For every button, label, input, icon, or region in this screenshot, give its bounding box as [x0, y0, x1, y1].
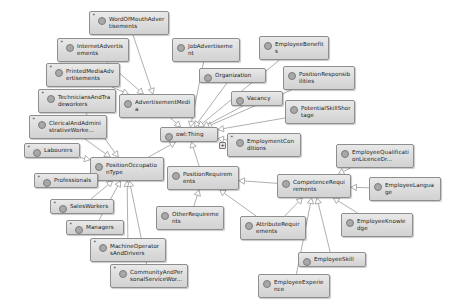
class-node-technicians[interactable]: *TechniciansAndTradeworkers	[38, 89, 116, 113]
class-node-positionoccupationtype[interactable]: PositionOccupationType	[90, 157, 164, 181]
subclass-arrowhead-icon	[239, 178, 245, 184]
class-node-internetadv[interactable]: *InternetAdvertisements	[57, 38, 129, 62]
class-node-community[interactable]: *CommunityAndPersonalServiceWor...	[110, 264, 188, 288]
class-node-label: EmployeeKnowledge	[357, 218, 409, 232]
inferred-asterisk-icon: *	[28, 145, 31, 150]
subclass-edge	[224, 193, 256, 216]
owl-class-icon	[124, 100, 132, 108]
owl-class-icon	[98, 17, 106, 25]
class-node-vacancy[interactable]: Vacancy	[231, 91, 283, 106]
class-node-label: PositionResponsibilities	[299, 71, 351, 85]
subclass-edge	[343, 168, 350, 172]
class-node-label: Vacancy	[247, 95, 279, 102]
subclass-arrowhead-icon	[220, 190, 226, 196]
class-node-wordofmouth[interactable]: *WordOfMouthAdvertisements	[89, 11, 169, 35]
owl-class-icon	[161, 212, 169, 220]
class-node-label: EmployeeExperience	[274, 279, 326, 293]
class-node-label: CompetenceRequirements	[293, 179, 347, 193]
inferred-asterisk-icon: *	[38, 175, 41, 180]
class-node-label: PotentialSkillShortage	[301, 105, 351, 119]
owl-class-icon	[55, 69, 63, 77]
owl-class-icon	[33, 149, 41, 157]
class-node-label: PositionRequirements	[183, 171, 235, 185]
owl-class-icon	[236, 139, 244, 147]
class-node-positionresponsibilities[interactable]: PositionResponsibilities	[283, 66, 355, 90]
class-node-label: EmploymentConditions	[247, 138, 297, 152]
owl-class-icon	[346, 219, 354, 227]
owl-class-icon	[38, 121, 46, 129]
ontology-diagram-canvas: *WordOfMouthAdvertisements*InternetAdver…	[0, 0, 465, 308]
owl-class-icon	[43, 179, 51, 187]
class-node-clerical[interactable]: *ClericalAndAdministrativeWorke...	[29, 115, 107, 139]
inferred-asterisk-icon: *	[70, 222, 73, 227]
inferred-asterisk-icon: *	[94, 240, 97, 245]
subclass-edge	[244, 181, 277, 183]
class-node-employeeexperience[interactable]: EmployeeExperience	[258, 274, 330, 298]
class-node-machineoperators[interactable]: *MachineOperatorsAndDrivers	[90, 238, 166, 262]
class-node-label: AttributeRequirements	[256, 221, 302, 235]
expand-node-button-employmentconditions[interactable]: +	[219, 142, 226, 149]
subclass-edge	[170, 118, 176, 123]
class-node-attributerequirements[interactable]: AttributeRequirements	[240, 216, 306, 240]
owl-class-icon	[290, 106, 298, 114]
class-node-label: PositionOccupationType	[106, 162, 160, 176]
owl-class-icon	[303, 258, 311, 266]
class-node-employmentconditions[interactable]: *EmploymentConditions	[227, 133, 301, 157]
owl-class-icon	[177, 44, 185, 52]
subclass-edge	[85, 139, 106, 154]
owl-class-icon	[172, 172, 180, 180]
subclass-arrowhead-icon	[307, 198, 313, 204]
inferred-asterisk-icon: *	[33, 117, 36, 122]
subclass-arrowhead-icon	[194, 190, 200, 196]
owl-class-icon	[264, 42, 272, 50]
class-node-salesworkers[interactable]: *SalesWorkers	[50, 199, 114, 214]
class-node-competencerequirements[interactable]: CompetenceRequirements	[277, 174, 351, 198]
inferred-asterisk-icon: *	[61, 40, 64, 45]
class-node-label: EmployeeQualificationLicenceDr...	[352, 149, 410, 163]
class-node-label: InternetAdvertisements	[77, 43, 125, 57]
subclass-edge	[194, 195, 198, 206]
owl-class-icon	[263, 280, 271, 288]
class-node-label: PrintedMediaAdvertisements	[66, 68, 116, 82]
class-node-label: MachineOperatorsAndDrivers	[110, 243, 162, 257]
class-node-organization[interactable]: Organization	[199, 68, 266, 83]
owl-class-icon	[165, 133, 173, 141]
class-node-label: Labourers	[44, 147, 76, 154]
inferred-asterisk-icon: *	[42, 91, 45, 96]
class-node-labourers[interactable]: *Labourers	[24, 143, 80, 158]
class-node-jobadvertisement[interactable]: JobAdvertisement	[172, 38, 240, 62]
inferred-asterisk-icon: *	[50, 65, 53, 70]
inferred-asterisk-icon: *	[93, 13, 96, 18]
subclass-edge	[193, 147, 199, 166]
class-node-label: Professionals	[54, 177, 94, 184]
class-node-otherrequirements[interactable]: OtherRequirements	[156, 206, 224, 230]
class-node-positionrequirements[interactable]: PositionRequirements	[167, 166, 239, 190]
class-node-employeeskill[interactable]: EmployeeSkill	[298, 252, 366, 267]
class-node-advertisementmedia[interactable]: AdvertisementMedia	[119, 94, 195, 118]
subclass-edge	[285, 202, 299, 216]
class-node-employeequalification[interactable]: EmployeeQualificationLicenceDr...	[336, 144, 414, 168]
class-node-label: SalesWorkers	[70, 203, 110, 210]
owl-class-icon	[341, 150, 349, 158]
owl-class-icon	[204, 74, 212, 82]
class-node-employeeknowledge[interactable]: EmployeeKnowledge	[341, 213, 413, 237]
class-node-label: EmployeeBenefits	[275, 41, 325, 55]
class-node-managers[interactable]: *Managers	[66, 220, 124, 235]
inferred-asterisk-icon: *	[114, 266, 117, 271]
class-node-employeebenefits[interactable]: EmployeeBenefits	[259, 36, 329, 60]
owl-class-icon	[47, 95, 55, 103]
class-node-printedmedia[interactable]: *PrintedMediaAdvertisements	[46, 63, 120, 87]
class-node-potentialskillshortage[interactable]: PotentialSkillShortage	[285, 100, 355, 124]
owl-class-icon	[236, 97, 244, 105]
owl-class-icon	[282, 180, 290, 188]
inferred-asterisk-icon: *	[231, 135, 234, 140]
class-node-employeelanguage[interactable]: EmployeeLanguage	[369, 177, 441, 201]
subclass-edge	[208, 106, 243, 124]
subclass-arrowhead-icon	[351, 184, 357, 190]
class-node-label: JobAdvertisement	[188, 43, 236, 57]
class-node-owlthing[interactable]: owl:Thing	[160, 127, 218, 142]
class-node-label: AdvertisementMedia	[135, 99, 191, 113]
owl-class-icon	[66, 44, 74, 52]
class-node-professionals[interactable]: *Professionals	[34, 173, 98, 188]
subclass-edge	[80, 157, 85, 158]
